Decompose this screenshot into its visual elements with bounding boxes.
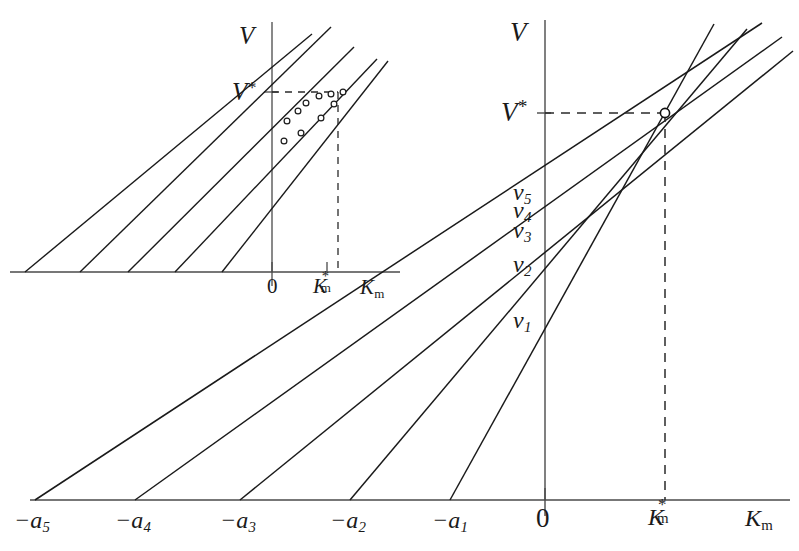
velocity-label-v1: v1 (513, 308, 531, 335)
main-line-a2-v2 (350, 29, 747, 500)
intercept-sub-2: 2 (359, 519, 366, 535)
intersection-point (295, 108, 301, 114)
intercept-label-a2: −a2 (330, 508, 366, 535)
main-line-a1-v1 (450, 24, 714, 500)
main-km-star-label: K*m (648, 505, 664, 529)
intersection-point (303, 100, 309, 106)
velocity-label-v2: v2 (513, 252, 531, 279)
inset-km-star-sub: m (321, 281, 331, 294)
main-v-star-label: V* (501, 98, 527, 126)
intercept-sub-3: 3 (249, 519, 256, 535)
main-plot-group (30, 20, 793, 516)
intercept-sub-1: 1 (461, 519, 468, 535)
intersection-point (281, 138, 287, 144)
inset-line-2 (80, 27, 331, 272)
inset-v-star-label: V* (232, 79, 256, 104)
velocity-label-v3: v3 (513, 218, 531, 245)
main-x-axis-label: Km (745, 506, 773, 533)
main-origin-label: 0 (536, 505, 550, 532)
inset-line-1 (25, 34, 312, 272)
inset-plot-group (10, 22, 400, 286)
intercept-label-a5: −a5 (14, 508, 50, 535)
intercept-label-a3: −a3 (220, 508, 256, 535)
inset-origin-label: 0 (267, 276, 278, 297)
main-km-star-sub: m (657, 511, 669, 526)
figure-vector (0, 0, 799, 551)
inset-line-4 (175, 59, 377, 272)
intersection-point (331, 101, 337, 107)
intersection-point (316, 93, 322, 99)
intercept-label-a1: −a1 (432, 508, 468, 535)
velocity-sub-3: 3 (524, 229, 531, 245)
intersection-point (298, 130, 304, 136)
inset-x-axis-sub: m (374, 286, 384, 301)
main-v-star-asterisk: * (518, 96, 527, 117)
inset-v-star-asterisk: * (248, 77, 257, 97)
inset-intersection-markers (281, 89, 346, 144)
inset-km-star-label: K*m (313, 276, 327, 297)
intercept-sub-5: 5 (43, 519, 50, 535)
main-y-axis-label: V (510, 19, 527, 46)
velocity-sub-2: 2 (524, 263, 531, 279)
inset-y-axis-label: V (239, 23, 254, 48)
convergence-point-marker (660, 108, 669, 117)
intersection-point (340, 89, 346, 95)
main-line-a4-v4 (135, 37, 782, 500)
main-x-axis-sub: m (761, 517, 773, 533)
figure-canvas: V V* 0 K*m Km V V* v5 v4 v3 v2 v1 −a5 −a… (0, 0, 799, 551)
intercept-label-a4: −a4 (115, 508, 151, 535)
intersection-point (318, 115, 324, 121)
intersection-point (284, 118, 290, 124)
intercept-sub-4: 4 (144, 519, 151, 535)
intersection-point (328, 91, 334, 97)
velocity-sub-1: 1 (524, 319, 531, 335)
main-line-a5-v5 (35, 23, 762, 500)
inset-x-axis-label: Km (360, 277, 384, 300)
